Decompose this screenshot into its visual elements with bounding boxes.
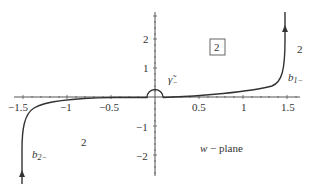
y-tick-label: 1 xyxy=(143,62,149,74)
b2-label: b2− xyxy=(32,148,47,162)
x-tick-label: 1.5 xyxy=(281,101,295,113)
x-tick-label: −0.5 xyxy=(99,101,119,113)
x-tick-label: 0.5 xyxy=(192,101,206,113)
plane-label: w − plane xyxy=(200,142,243,154)
lower-left-region-label: 2 xyxy=(81,136,87,148)
b1-arrow-icon xyxy=(282,25,288,32)
x-tick-label: 1 xyxy=(241,101,247,113)
y-tick-label: −1 xyxy=(136,121,148,133)
boxed-region-label: 2 xyxy=(214,41,220,53)
x-tick-label: −1.5 xyxy=(8,101,28,113)
w-plane-diagram: −1.5 −1 −0.5 0.5 1 1.5 2 1 −1 −2 2 2 2 b… xyxy=(0,0,312,190)
b1-label: b1− xyxy=(288,71,303,85)
y-tick-label: −2 xyxy=(136,150,148,162)
gamma-label: γ̃− xyxy=(168,73,178,87)
b2-arrow-icon xyxy=(19,170,25,177)
y-tick-label: 2 xyxy=(143,33,149,45)
right-region-label: 2 xyxy=(297,43,303,55)
x-tick-label: −1 xyxy=(60,101,72,113)
